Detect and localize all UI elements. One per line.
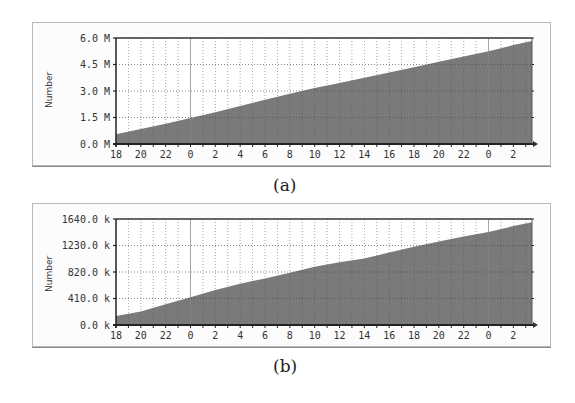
x-tick-label: 2 — [212, 149, 218, 160]
x-tick-label: 2 — [510, 330, 516, 341]
x-tick-label: 0 — [187, 149, 193, 160]
x-tick-label: 14 — [358, 149, 370, 160]
y-tick-label: 4.5 M — [80, 59, 110, 70]
x-tick-label: 6 — [262, 149, 268, 160]
y-tick-label: 0.0 M — [80, 139, 110, 150]
x-tick-label: 20 — [433, 330, 445, 341]
x-tick-label: 12 — [333, 330, 345, 341]
x-tick-label: 0 — [187, 330, 193, 341]
x-tick-label: 20 — [433, 149, 445, 160]
x-tick-label: 22 — [160, 149, 172, 160]
x-tick-label: 2 — [212, 330, 218, 341]
y-tick-label: 3.0 M — [80, 86, 110, 97]
x-tick-label: 22 — [458, 149, 470, 160]
x-tick-label: 10 — [309, 330, 321, 341]
x-tick-label: 2 — [510, 149, 516, 160]
chart-a-plot: 0.0 M1.5 M3.0 M4.5 M6.0 M182022024681012… — [33, 23, 550, 165]
x-tick-label: 10 — [309, 149, 321, 160]
y-tick-label: 1.5 M — [80, 112, 110, 123]
x-tick-label: 22 — [458, 330, 470, 341]
x-tick-label: 8 — [287, 330, 293, 341]
x-tick-label: 12 — [333, 149, 345, 160]
x-tick-label: 0 — [486, 330, 492, 341]
x-tick-label: 14 — [358, 330, 370, 341]
chart-panel-a: 0.0 M1.5 M3.0 M4.5 M6.0 M182022024681012… — [32, 22, 551, 166]
x-tick-label: 16 — [383, 330, 395, 341]
x-tick-label: 20 — [135, 149, 147, 160]
y-tick-label: 1640.0 k — [62, 214, 110, 225]
caption-b: (b) — [273, 356, 297, 376]
x-tick-label: 16 — [383, 149, 395, 160]
y-axis-title-b: Number — [44, 256, 54, 292]
caption-a: (a) — [273, 175, 296, 195]
x-tick-label: 0 — [486, 149, 492, 160]
x-tick-label: 18 — [110, 149, 122, 160]
x-tick-label: 18 — [110, 330, 122, 341]
y-tick-label: 820.0 k — [68, 267, 110, 278]
y-tick-label: 0.0 k — [80, 320, 110, 331]
y-tick-label: 6.0 M — [80, 33, 110, 44]
x-tick-label: 20 — [135, 330, 147, 341]
y-tick-label: 1230.0 k — [62, 240, 110, 251]
y-tick-label: 410.0 k — [68, 293, 110, 304]
y-axis-title-a: Number — [44, 72, 54, 108]
chart-panel-b: 0.0 k410.0 k820.0 k1230.0 k1640.0 k18202… — [32, 203, 551, 347]
chart-b-plot: 0.0 k410.0 k820.0 k1230.0 k1640.0 k18202… — [33, 204, 550, 346]
x-tick-label: 4 — [237, 149, 243, 160]
x-tick-label: 18 — [408, 330, 420, 341]
x-tick-label: 18 — [408, 149, 420, 160]
x-tick-label: 4 — [237, 330, 243, 341]
x-tick-label: 8 — [287, 149, 293, 160]
x-tick-label: 22 — [160, 330, 172, 341]
x-tick-label: 6 — [262, 330, 268, 341]
